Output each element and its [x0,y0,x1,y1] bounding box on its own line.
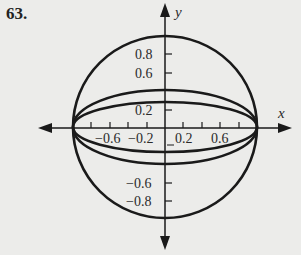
y-axis-down-arrow-icon [160,236,170,250]
x-tick-label: −0.2 [128,131,153,146]
x-tick-label: −0.6 [95,131,120,146]
y-axis-up-arrow-icon [160,3,170,17]
x-axis-left-arrow-icon [38,123,52,133]
x-tick-label: 0.2 [175,131,193,146]
y-tick-label: −0.8 [126,194,151,209]
y-axis-label: y [173,4,182,20]
diagram: y x −0.6 −0.2 0.2 0.6 0.8 0.6 0.2 −0.6 −… [0,0,301,255]
y-tick-label: 0.2 [135,103,153,118]
y-tick-label: −0.6 [126,176,151,191]
y-tick-label: 0.6 [135,66,153,81]
x-axis-label: x [277,105,285,121]
x-axis-right-arrow-icon [278,123,292,133]
y-tick-label: 0.8 [135,47,153,62]
x-tick-label: 0.6 [211,131,229,146]
